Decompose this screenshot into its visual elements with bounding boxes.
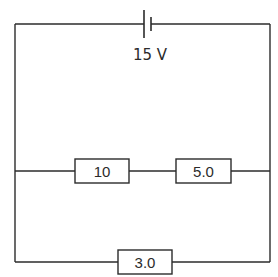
battery-label: 15 V bbox=[133, 46, 168, 64]
resistor-label: 10 bbox=[94, 163, 111, 180]
resistor-label: 5.0 bbox=[193, 163, 214, 180]
resistor-10: 10 bbox=[75, 159, 129, 183]
circuit-diagram: 15 V 10 5.0 3.0 bbox=[0, 0, 278, 277]
battery-icon bbox=[144, 10, 151, 38]
resistor-3: 3.0 bbox=[118, 250, 172, 274]
resistor-label: 3.0 bbox=[135, 254, 156, 271]
resistor-5: 5.0 bbox=[176, 159, 231, 183]
